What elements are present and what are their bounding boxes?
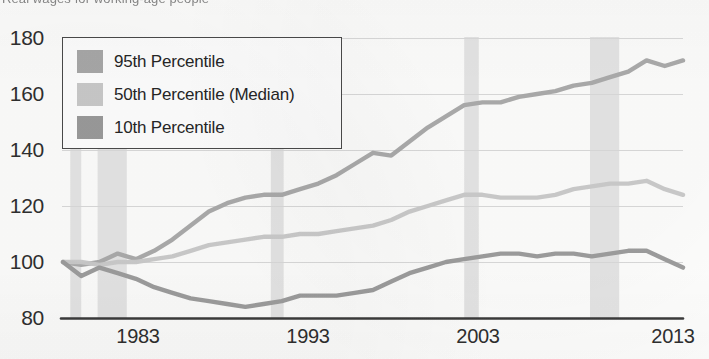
x-axis-label-1983: 1983 [108,326,168,346]
recession-band [464,37,479,318]
legend-swatch-95th [77,50,103,73]
legend-label-95th: 95th Percentile [114,52,224,72]
y-axis-label-140: 140 [0,139,44,160]
chart-title-clipped: Real wages for working-age people [0,0,709,11]
legend-label-10th: 10th Percentile [114,118,224,138]
legend-item-10th: 10th Percentile [77,111,341,144]
y-axis-label-80: 80 [0,307,44,328]
legend-swatch-50th [77,83,103,106]
chart-legend: 95th Percentile 50th Percentile (Median)… [62,37,342,149]
legend-item-95th: 95th Percentile [77,45,341,78]
y-axis-label-120: 120 [0,195,44,216]
y-axis-label-100: 100 [0,251,44,272]
y-axis-label-180: 180 [0,27,44,48]
legend-swatch-10th [77,116,103,139]
x-axis-label-2003: 2003 [448,326,508,346]
legend-label-50th: 50th Percentile (Median) [114,85,294,105]
x-axis-label-2013: 2013 [643,326,703,346]
chart-title-text: Real wages for working-age people [0,0,709,6]
y-axis-label-160: 160 [0,83,44,104]
x-axis-label-1993: 1993 [278,326,338,346]
legend-item-50th: 50th Percentile (Median) [77,78,341,111]
chart-canvas: Real wages for working-age people 180 16… [0,0,709,359]
